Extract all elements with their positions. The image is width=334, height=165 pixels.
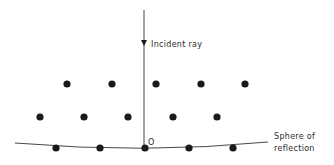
- lattice-points: [36, 80, 248, 151]
- lattice-point: [124, 113, 131, 120]
- lattice-point: [169, 113, 176, 120]
- lattice-point: [241, 80, 248, 87]
- lattice-point: [108, 80, 115, 87]
- lattice-point: [36, 113, 43, 120]
- lattice-point: [213, 113, 220, 120]
- sphere-label-line1: Sphere of: [274, 132, 315, 141]
- origin-label: O: [148, 138, 155, 147]
- lattice-point: [52, 144, 59, 151]
- sphere-label-line2: reflection: [274, 144, 315, 153]
- lattice-point: [229, 144, 236, 151]
- lattice-point: [141, 144, 148, 151]
- lattice-point: [63, 80, 70, 87]
- lattice-point: [197, 80, 204, 87]
- lattice-point: [96, 144, 103, 151]
- reciprocal-lattice-diagram: Incident ray O Sphere of reflection: [0, 0, 334, 165]
- incident-ray-label: Incident ray: [151, 40, 202, 49]
- lattice-point: [185, 144, 192, 151]
- lattice-point: [152, 80, 159, 87]
- incident-ray-arrow-icon: [141, 40, 147, 46]
- lattice-point: [80, 113, 87, 120]
